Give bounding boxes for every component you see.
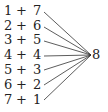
sum-pair-row: 6 + 2: [0, 78, 44, 92]
addend-left: 3: [4, 33, 12, 47]
plus-sign: +: [16, 19, 27, 33]
addend-left: 2: [4, 19, 12, 33]
plus-sign: +: [16, 63, 27, 77]
sum-pair-row: 4 + 4: [0, 48, 44, 62]
addend-right: 7: [33, 4, 41, 18]
plus-sign: +: [16, 78, 27, 92]
addend-right: 4: [33, 48, 41, 62]
connector-line-5: [44, 55, 91, 70]
plus-sign: +: [16, 33, 27, 47]
plus-sign: +: [16, 48, 27, 62]
addend-right: 6: [33, 19, 41, 33]
addend-right: 1: [33, 93, 41, 107]
addend-left: 5: [4, 63, 12, 77]
connector-line-1: [44, 12, 91, 55]
plus-sign: +: [16, 93, 27, 107]
addend-right: 2: [33, 78, 41, 92]
sum-pair-row: 1 + 7: [0, 4, 44, 18]
sum-pair-row: 7 + 1: [0, 93, 44, 107]
connector-line-2: [44, 27, 91, 55]
connector-line-7: [44, 55, 91, 100]
plus-sign: +: [16, 4, 27, 18]
sum-pair-row: 3 + 5: [0, 33, 44, 47]
sum-pair-row: 2 + 6: [0, 19, 44, 33]
addend-right: 5: [33, 33, 41, 47]
sum-pair-row: 5 + 3: [0, 63, 44, 77]
addend-right: 3: [33, 63, 41, 77]
addend-left: 7: [4, 93, 12, 107]
addend-left: 1: [4, 4, 12, 18]
addend-left: 6: [4, 78, 12, 92]
connector-line-6: [44, 55, 91, 85]
connector-line-4: [44, 55, 91, 56]
addend-left: 4: [4, 48, 12, 62]
sum-target: 8: [92, 48, 100, 62]
connector-line-3: [44, 41, 91, 55]
